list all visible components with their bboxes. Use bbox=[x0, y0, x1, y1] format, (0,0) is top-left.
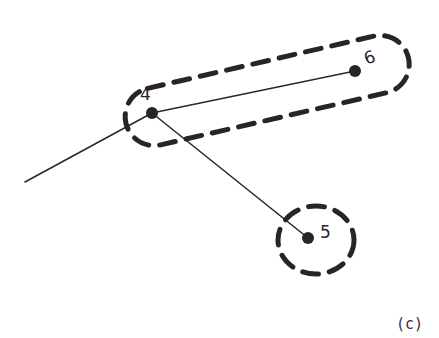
graph-diagram: 4 6 5 (c) bbox=[0, 0, 439, 338]
node-label-6: 6 bbox=[361, 46, 378, 68]
node-5 bbox=[302, 232, 314, 244]
node-4 bbox=[146, 107, 158, 119]
group-5-outline bbox=[278, 206, 354, 274]
figure-caption: (c) bbox=[396, 315, 423, 333]
edge-4-external bbox=[25, 113, 152, 182]
node-6 bbox=[349, 65, 361, 77]
node-label-5: 5 bbox=[320, 222, 331, 242]
node-label-4: 4 bbox=[140, 84, 151, 104]
